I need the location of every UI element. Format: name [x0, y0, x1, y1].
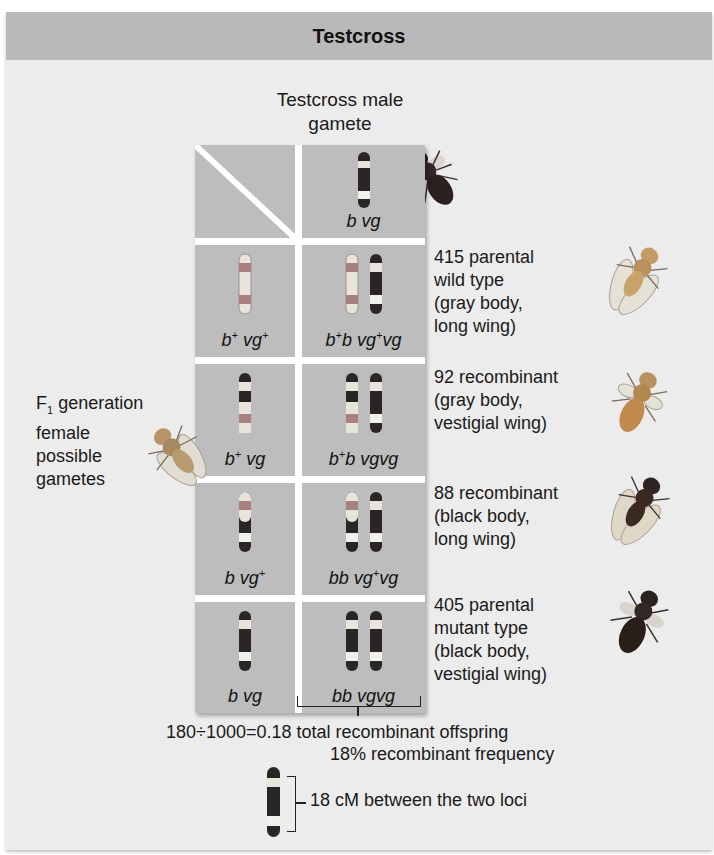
grid-divider	[195, 238, 425, 245]
result-line: 92 recombinant	[434, 366, 558, 389]
result-line: (black body,	[434, 640, 547, 663]
result-line: 405 parental	[434, 594, 547, 617]
offspring-genotype: b+b vgvg	[302, 448, 425, 470]
male-label-line2: gamete	[270, 112, 410, 136]
result-line: (gray body,	[434, 292, 534, 315]
loci-bracket-tick	[296, 802, 306, 804]
result-line: (black body,	[434, 505, 558, 528]
result-line: 415 parental	[434, 246, 534, 269]
result-line: 88 recombinant	[434, 482, 558, 505]
chromosome-icon	[344, 491, 360, 553]
grid-divider	[195, 476, 425, 483]
figure-title: Testcross	[6, 12, 712, 60]
black-long-wing-fly-icon	[597, 466, 677, 556]
offspring-bracket	[297, 696, 421, 707]
punnett-square: b vg b+ vg+ b+b v	[195, 145, 425, 713]
map-distance-label: 18 cM between the two loci	[310, 790, 527, 811]
result-line: vestigial wing)	[434, 412, 558, 435]
chromosome-icon	[237, 372, 253, 434]
grid-divider	[195, 357, 425, 364]
chromosome-icon	[237, 610, 253, 672]
female-gamete-cell-3: b vg+	[195, 483, 295, 595]
result-line: mutant type	[434, 617, 547, 640]
f1-line1: F1 generation	[36, 392, 143, 422]
female-gamete-cell-1: b+ vg+	[195, 245, 295, 357]
offspring-genotype: bb vg+vg	[302, 567, 425, 589]
map-chromosome-icon	[264, 766, 284, 838]
result-line: wild type	[434, 269, 534, 292]
chromosome-icon	[356, 151, 372, 209]
loci-bracket	[287, 776, 296, 832]
gamete-genotype: b vg+	[195, 567, 295, 589]
gray-vestigial-fly-icon	[597, 362, 677, 447]
title-text: Testcross	[312, 25, 405, 48]
male-label-line1: Testcross male	[270, 88, 410, 112]
result-line: long wing)	[434, 315, 534, 338]
gamete-genotype: b+ vg+	[195, 329, 295, 351]
offspring-cell-1: b+b vg+vg	[302, 245, 425, 357]
f1-line4: gametes	[36, 468, 143, 491]
chromosome-icon	[368, 491, 384, 553]
grid-divider-vertical	[295, 145, 302, 713]
f1-line2: female	[36, 422, 143, 445]
male-genotype: b vg	[302, 211, 425, 232]
chromosome-icon	[368, 253, 384, 315]
recombinant-calculation: 180÷1000=0.18 total recombinant offsprin…	[166, 722, 508, 743]
result-row-1: 415 parental wild type (gray body, long …	[434, 246, 534, 338]
result-row-3: 88 recombinant (black body, long wing)	[434, 482, 558, 551]
corner-diagonal	[195, 145, 295, 238]
result-line: (gray body,	[434, 389, 558, 412]
offspring-cell-2: b+b vgvg	[302, 364, 425, 476]
female-gamete-cell-4: b vg	[195, 602, 295, 713]
chromosome-icon	[237, 253, 253, 315]
recombinant-frequency: 18% recombinant frequency	[330, 744, 554, 765]
chromosome-icon	[344, 253, 360, 315]
chromosome-group	[302, 151, 425, 209]
result-row-4: 405 parental mutant type (black body, ve…	[434, 594, 547, 686]
male-gamete-cell: b vg	[302, 145, 425, 238]
result-line: vestigial wing)	[434, 663, 547, 686]
corner-cell	[195, 145, 295, 238]
offspring-cell-3: bb vg+vg	[302, 483, 425, 595]
offspring-genotype: b+b vg+vg	[302, 329, 425, 351]
chromosome-icon	[344, 372, 360, 434]
chromosome-icon	[368, 372, 384, 434]
result-row-2: 92 recombinant (gray body, vestigial win…	[434, 366, 558, 435]
male-gamete-label: Testcross male gamete	[270, 88, 410, 136]
result-line: long wing)	[434, 528, 558, 551]
f1-line3: possible	[36, 445, 143, 468]
grid-divider	[195, 595, 425, 602]
chromosome-icon	[237, 491, 253, 553]
chromosome-icon	[368, 610, 384, 672]
wild-type-fly-icon	[595, 236, 675, 326]
gamete-genotype: b vg	[195, 685, 295, 707]
black-vestigial-fly-icon	[597, 580, 677, 670]
female-fly-icon	[138, 415, 218, 495]
bracket-stem	[357, 706, 359, 716]
chromosome-icon	[344, 610, 360, 672]
female-gamete-label: F1 generation female possible gametes	[36, 392, 143, 491]
